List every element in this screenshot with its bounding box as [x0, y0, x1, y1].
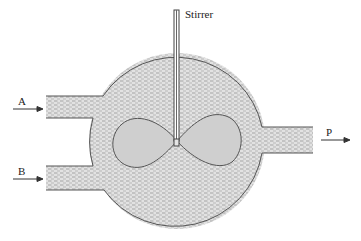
stirrer-label: Stirrer	[185, 9, 213, 20]
arrow-p-icon	[321, 138, 350, 143]
inlet-b-label: B	[18, 166, 25, 177]
arrow-a-icon	[13, 107, 43, 112]
arrow-b-icon	[13, 177, 43, 182]
inlet-a-label: A	[18, 96, 26, 107]
outlet-p-label: P	[326, 127, 332, 138]
reactor-diagram	[0, 0, 361, 241]
stirrer-shaft	[174, 10, 179, 146]
impeller-hub	[174, 139, 179, 146]
